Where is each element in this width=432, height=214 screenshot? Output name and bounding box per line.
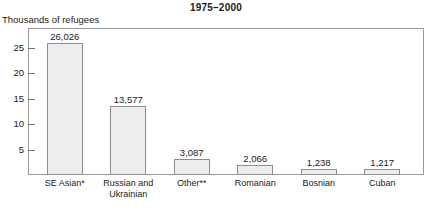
bar-value-label: 26,026: [35, 31, 95, 42]
bar-value-label: 2,066: [225, 153, 285, 164]
y-axis-tick: [28, 150, 35, 151]
x-axis-category-label: Cuban: [344, 178, 420, 189]
refugees-bar-chart: 1975–2000 Thousands of refugees 51015202…: [0, 0, 432, 214]
bar: [237, 165, 273, 176]
y-axis-caption: Thousands of refugees: [2, 14, 99, 25]
chart-title: 1975–2000: [0, 2, 432, 13]
bar-value-label: 1,217: [352, 157, 412, 168]
y-axis-tick-label: 25: [2, 43, 24, 53]
bar-value-label: 1,238: [289, 157, 349, 168]
bar: [301, 169, 337, 175]
bar: [47, 43, 83, 175]
bar-value-label: 13,577: [98, 94, 158, 105]
y-axis-tick-label: 20: [2, 68, 24, 78]
y-axis-tick: [28, 124, 35, 125]
y-axis-tick: [28, 73, 35, 74]
x-axis-category-line: Ukrainian: [90, 189, 166, 200]
y-axis-tick-label: 15: [2, 94, 24, 104]
y-axis-tick-label: 5: [2, 145, 24, 155]
bar: [174, 159, 210, 175]
y-axis-tick-label: 10: [2, 119, 24, 129]
x-axis-category-line: Cuban: [344, 178, 420, 189]
bar-value-label: 3,087: [162, 147, 222, 158]
bar: [364, 169, 400, 175]
y-axis-tick: [28, 48, 35, 49]
y-axis-tick: [28, 99, 35, 100]
bar: [110, 106, 146, 175]
